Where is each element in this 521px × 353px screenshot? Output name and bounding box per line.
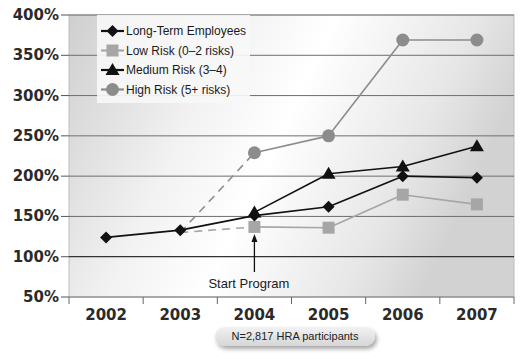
x-tick-label: 2006 bbox=[382, 306, 424, 324]
x-tick-label: 2004 bbox=[234, 306, 276, 324]
x-axis: 200220032004200520062007 bbox=[69, 297, 514, 324]
legend-label: High Risk (5+ risks) bbox=[126, 83, 230, 97]
y-tick-label: 400% bbox=[13, 6, 59, 24]
y-tick-label: 200% bbox=[13, 167, 59, 185]
square-marker bbox=[471, 198, 483, 210]
square-marker bbox=[248, 221, 260, 233]
y-tick-label: 100% bbox=[13, 248, 59, 266]
legend-label: Long-Term Employees bbox=[126, 24, 246, 38]
y-axis: 50%100%150%200%250%300%350%400% bbox=[13, 6, 69, 306]
line-segment bbox=[254, 227, 328, 228]
y-tick-label: 250% bbox=[13, 127, 59, 145]
square-marker bbox=[323, 222, 335, 234]
legend-label: Medium Risk (3–4) bbox=[126, 63, 227, 77]
circle-marker bbox=[248, 146, 261, 159]
y-tick-label: 350% bbox=[13, 46, 59, 64]
y-tick-label: 50% bbox=[23, 288, 59, 306]
x-tick-label: 2003 bbox=[159, 306, 201, 324]
circle-marker bbox=[322, 129, 335, 142]
x-tick-label: 2007 bbox=[456, 306, 498, 324]
x-tick-label: 2005 bbox=[308, 306, 350, 324]
legend: Long-Term EmployeesLow Risk (0–2 risks)M… bbox=[97, 15, 250, 103]
square-marker bbox=[397, 189, 409, 201]
circle-marker bbox=[396, 33, 409, 46]
y-tick-label: 150% bbox=[13, 207, 59, 225]
y-tick-label: 300% bbox=[13, 87, 59, 105]
square-icon bbox=[107, 45, 119, 57]
line-chart: 50%100%150%200%250%300%350%400% 20022003… bbox=[0, 0, 521, 353]
sample-size-note: N=2,817 HRA participants bbox=[215, 327, 375, 346]
annotation-label: Start Program bbox=[208, 276, 289, 291]
circle-icon bbox=[106, 83, 119, 96]
circle-marker bbox=[470, 33, 483, 46]
legend-label: Low Risk (0–2 risks) bbox=[126, 44, 234, 58]
x-tick-label: 2002 bbox=[85, 306, 127, 324]
